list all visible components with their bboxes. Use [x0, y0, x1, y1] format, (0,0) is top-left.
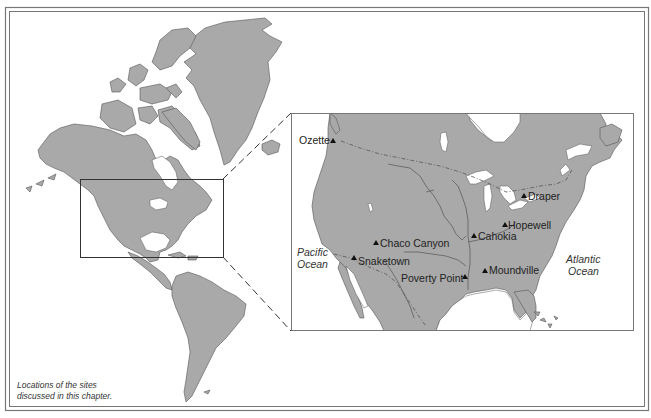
- ocean-label-pacific: Pacific Ocean: [297, 246, 329, 270]
- site-draper: Draper: [521, 190, 561, 202]
- site-label: Snaketown: [358, 255, 410, 267]
- figure-caption: Locations of the sites discussed in this…: [17, 380, 112, 402]
- site-label: Ozette: [299, 134, 330, 146]
- site-label: Draper: [528, 190, 561, 202]
- site-poverty-point: Poverty Point: [401, 272, 468, 284]
- triangle-icon: [482, 268, 488, 273]
- site-label: Cahokia: [478, 230, 517, 242]
- caption-line-2: discussed in this chapter.: [17, 391, 112, 402]
- site-label: Poverty Point: [401, 272, 464, 284]
- triangle-icon: [330, 138, 336, 143]
- site-labels: Ozette Draper Hopewell Cahokia Chaco Can…: [0, 0, 651, 418]
- triangle-icon: [351, 255, 357, 260]
- site-label: Moundville: [489, 264, 539, 276]
- map-figure: Ozette Draper Hopewell Cahokia Chaco Can…: [0, 0, 651, 418]
- site-label: Chaco Canyon: [380, 237, 450, 249]
- triangle-icon: [521, 193, 527, 198]
- svg-text:Ocean: Ocean: [568, 265, 599, 277]
- svg-text:Pacific: Pacific: [297, 246, 329, 258]
- site-cahokia: Cahokia: [471, 230, 517, 242]
- triangle-icon: [471, 233, 477, 238]
- svg-text:Ocean: Ocean: [297, 258, 328, 270]
- ocean-label-atlantic: Atlantic Ocean: [565, 253, 601, 277]
- triangle-icon: [373, 240, 379, 245]
- caption-line-1: Locations of the sites: [17, 380, 112, 391]
- site-chaco-canyon: Chaco Canyon: [373, 237, 450, 249]
- svg-text:Atlantic: Atlantic: [565, 253, 601, 265]
- site-moundville: Moundville: [482, 264, 539, 276]
- site-ozette: Ozette: [299, 134, 336, 146]
- site-snaketown: Snaketown: [351, 255, 410, 267]
